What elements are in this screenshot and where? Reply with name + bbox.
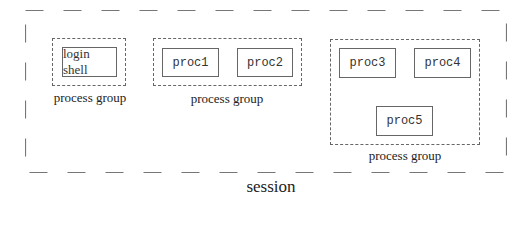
process-group-3-label: process group <box>355 148 455 164</box>
session-label: session <box>221 177 321 197</box>
process-proc2: proc2 <box>237 48 293 77</box>
process-proc4: proc4 <box>414 48 471 78</box>
process-proc1: proc1 <box>162 48 219 77</box>
process-proc3: proc3 <box>339 48 396 78</box>
process-login-shell: login shell <box>62 47 117 77</box>
process-group-1-label: process group <box>40 90 140 106</box>
process-group-2-label: process group <box>177 91 277 107</box>
process-proc5: proc5 <box>376 106 433 136</box>
